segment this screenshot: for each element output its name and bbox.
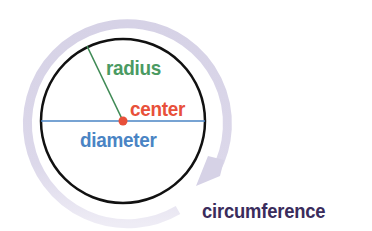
dot-icon [119,117,128,126]
circle-diagram [0,0,372,231]
radius-label: radius [106,57,161,78]
circumference-arrow-arc [27,24,227,224]
diameter-label: diameter [80,129,157,150]
circumference-label: circumference [202,201,325,221]
center-label: center [130,98,185,119]
curved-arrow-icon [196,156,224,186]
